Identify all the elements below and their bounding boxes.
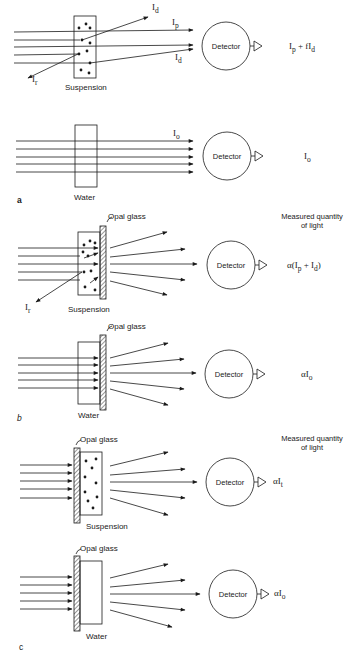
opal-glass-c-top [74,448,80,523]
sample-label-b-top: Suspension [68,305,110,314]
sample-label-c-bottom: Water [86,632,107,641]
sample-label-c-top: Suspension [86,522,128,531]
measured-quantity-header-b: Measured quantityof light [272,212,352,230]
measured-quantity-header-c: Measured quantityof light [272,434,352,452]
detector-label: Detector [206,42,246,51]
label-Ir-a: Ir [32,75,38,87]
measured-c-bottom: αIo [274,589,285,601]
glass-label-b-bottom: Opal glass [108,322,146,331]
label-Id-scatter: Id [152,3,159,15]
opal-glass-b-bottom [100,335,106,410]
water-cuvette-c [80,561,102,624]
sample-label-a-bottom: Water [74,193,95,202]
sample-label-b-bottom: Water [78,411,99,420]
glass-label-c-bottom: Opal glass [80,544,118,553]
suspension-cuvette-c [80,452,102,515]
measured-c-top: αIt [273,477,283,489]
panel-c-bottom-beams [20,564,200,627]
diagram-canvas [0,0,359,655]
label-Ip: Ip [172,18,179,30]
particles-a [78,23,92,75]
measured-a-bottom: Io [304,152,311,164]
detector-label: Detector [210,478,250,487]
particles-c [84,458,99,510]
sample-label-a-top: Suspension [65,83,107,92]
glass-label-c-top: Opal glass [80,435,118,444]
output-triangle-icon [254,41,262,51]
detector-label: Detector [213,590,253,599]
glass-label-b-top: Opal glass [108,212,146,221]
measured-b-top: α(Ip + Id) [287,261,321,273]
panel-label-a: a [17,195,22,205]
particles-b [82,240,97,292]
panel-a-bottom-beams [16,141,193,172]
panel-b-bottom-beams [18,343,196,405]
opal-glass-b-top [100,226,106,299]
opal-glass-c-bottom [74,556,80,631]
detector-label: Detector [211,261,251,270]
water-cuvette-a [75,125,97,187]
detector-label: Detector [209,370,249,379]
panel-label-c: c [19,642,23,652]
label-Io: Io [173,129,180,141]
measured-b-bottom: αIo [301,370,312,382]
panel-a-top-beams [14,17,193,78]
label-Ir-b: Ir [25,303,31,315]
label-Id-forward: Id [175,53,182,65]
panel-label-b: b [17,413,22,423]
suspension-cuvette-a [74,16,96,78]
panel-b-top-beams [18,232,197,302]
panel-c-top-beams [20,452,197,515]
detector-label: Detector [207,152,247,161]
measured-a-top: Ip + fId [289,42,315,54]
